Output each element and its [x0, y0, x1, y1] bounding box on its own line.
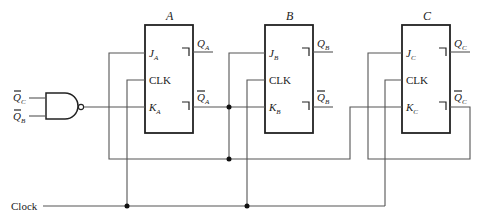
flip-flop-b-title: B: [286, 9, 294, 23]
inversion-bubble: [78, 104, 83, 109]
flip-flop-a-labels: JA CLK KA QA QA: [148, 37, 210, 116]
flip-flop-c-title: C: [423, 9, 432, 23]
k-c-label: KC: [405, 101, 418, 116]
nand-gate: QC QB: [13, 91, 84, 125]
junction-dot: [227, 157, 232, 162]
flip-flop-b-labels: JB CLK KB QB QB: [268, 37, 330, 116]
flip-flop-a-title: A: [165, 9, 174, 23]
junction-dot: [245, 204, 250, 209]
qbar-a-label: QA: [197, 91, 210, 106]
q-c-label: QC: [454, 37, 467, 52]
k-a-label: KA: [148, 101, 161, 116]
circuit-diagram: A B C JA CLK KA QA QA JB CLK KB QB QB JC…: [0, 0, 482, 223]
j-b-label: JB: [269, 47, 279, 62]
clk-b-label: CLK: [269, 74, 291, 86]
junction-dot: [227, 105, 232, 110]
q-a-label: QA: [197, 37, 210, 52]
j-c-label: JC: [406, 47, 416, 62]
j-a-label: JA: [149, 47, 159, 62]
q-b-label: QB: [317, 37, 330, 52]
clk-c-label: CLK: [406, 74, 428, 86]
flip-flop-c-labels: JC CLK KC QC QC: [405, 37, 467, 116]
qbar-b-label: QB: [317, 91, 330, 106]
nand-input-qbar-b-label: QB: [13, 110, 26, 125]
nand-input-qbar-c-label: QC: [13, 91, 26, 106]
clk-a-label: CLK: [149, 74, 171, 86]
k-b-label: KB: [268, 101, 281, 116]
qbar-c-label: QC: [454, 91, 467, 106]
clock-label: Clock: [11, 200, 38, 212]
junction-dot: [125, 204, 130, 209]
